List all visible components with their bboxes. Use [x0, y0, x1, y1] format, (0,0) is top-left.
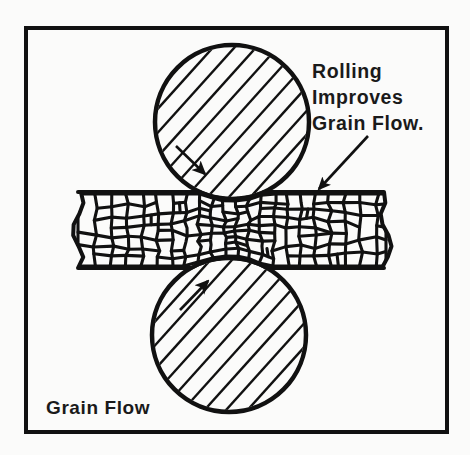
- metal-strip: [73, 192, 391, 268]
- callout-line-1: Rolling: [312, 60, 382, 82]
- rolling-grain-flow-diagram: Rolling Improves Grain Flow. Grain Flow: [0, 0, 470, 455]
- grain-flow-label: Grain Flow: [46, 397, 150, 418]
- callout-line-3: Grain Flow.: [312, 112, 424, 134]
- figure-root: Rolling Improves Grain Flow. Grain Flow: [0, 0, 470, 455]
- callout-line-2: Improves: [312, 86, 404, 108]
